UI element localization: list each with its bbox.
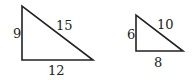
large-hypotenuse-label: 15: [56, 18, 73, 33]
large-left-side-label: 9: [13, 26, 21, 41]
large-bottom-side-label: 12: [48, 63, 65, 78]
small-bottom-side-label: 8: [154, 55, 162, 70]
large-triangle: 9 15 12: [13, 6, 93, 78]
small-hypotenuse-label: 10: [157, 17, 174, 32]
small-left-side-label: 6: [127, 27, 135, 42]
small-triangle: 6 10 8: [127, 15, 183, 70]
large-triangle-shape: [22, 6, 93, 60]
similar-triangles-diagram: 9 15 12 6 10 8: [0, 0, 192, 80]
